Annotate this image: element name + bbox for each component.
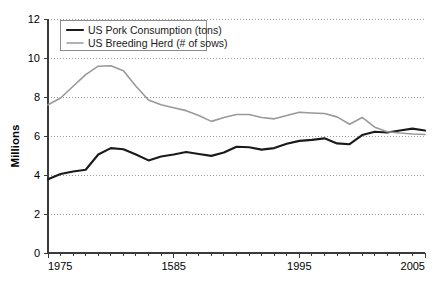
chart-legend: US Pork Consumption (tons)US Breeding He…	[60, 20, 227, 50]
x-tick-label: 1585	[161, 260, 185, 272]
y-axis-title: Millions	[9, 125, 21, 168]
x-tick-label: 1995	[287, 260, 311, 272]
line-chart: 024681012 1975158519952005 Millions US P…	[0, 0, 438, 281]
legend-label-0: US Pork Consumption (tons)	[88, 24, 222, 36]
chart-container: 024681012 1975158519952005 Millions US P…	[0, 0, 438, 281]
legend-label-1: US Breeding Herd (# of sows)	[88, 37, 227, 49]
y-tick-label: 8	[34, 91, 40, 103]
y-tick-label: 0	[34, 247, 40, 259]
y-tick-label: 10	[28, 52, 40, 64]
y-tick-label: 4	[34, 169, 40, 181]
y-tick-label: 12	[28, 13, 40, 25]
y-tick-label: 6	[34, 130, 40, 142]
x-tick-label: 1975	[48, 260, 72, 272]
y-tick-label: 2	[34, 208, 40, 220]
x-tick-label: 2005	[401, 260, 425, 272]
